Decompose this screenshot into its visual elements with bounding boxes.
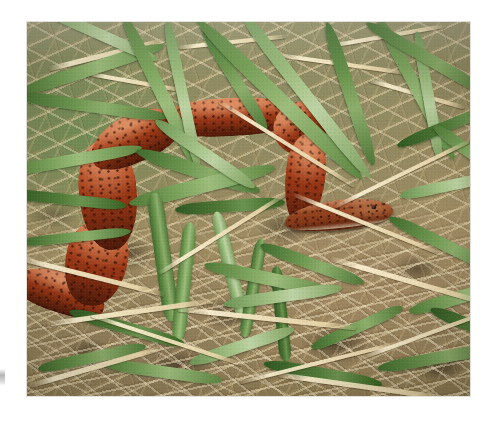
photo-highlight-layer [27, 22, 470, 396]
page-canvas [0, 0, 488, 423]
snake-photograph [27, 22, 470, 396]
page-edge-smudge [0, 369, 5, 386]
